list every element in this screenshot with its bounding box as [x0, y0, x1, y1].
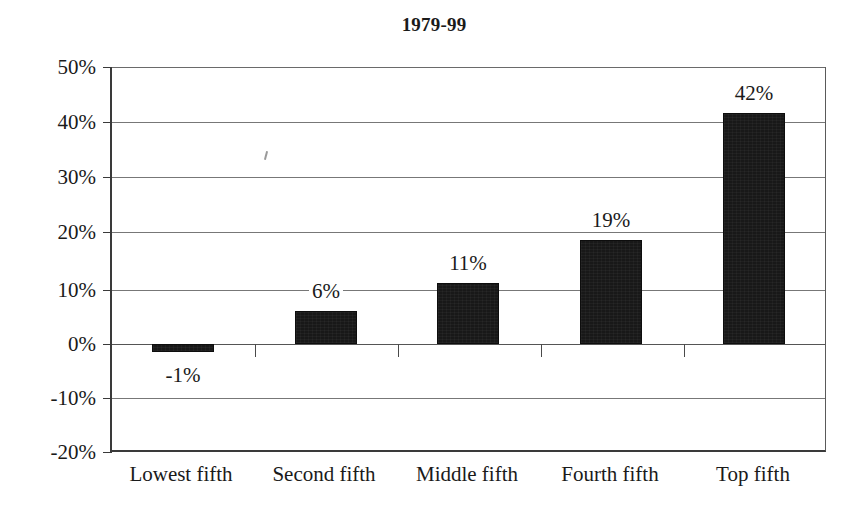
x-axis-category-labels: Lowest fifth Second fifth Middle fifth F… — [110, 462, 826, 502]
x-category-label-fourth-fifth: Fourth fifth — [561, 462, 658, 487]
y-tick-label-neg10: -10% — [51, 386, 97, 411]
y-tick-mark-30 — [103, 177, 112, 178]
y-tick-label-40: 40% — [58, 110, 97, 135]
y-tick-label-0: 0% — [68, 332, 96, 357]
bar-chart: 1979-99 50% 40% 30% 20% 10% 0% -10% -20% — [0, 0, 868, 511]
y-tick-mark-neg10 — [103, 398, 112, 399]
y-tick-mark-50 — [103, 67, 112, 68]
gridline-30 — [112, 177, 825, 178]
x-category-label-lowest-fifth: Lowest fifth — [129, 462, 232, 487]
bar-value-label-middle-fifth: 11% — [446, 252, 490, 274]
y-axis-tick-labels: 50% 40% 30% 20% 10% 0% -10% -20% — [0, 0, 110, 511]
y-tick-mark-0 — [103, 344, 112, 345]
plot-area: -1% 6% 11% 19% 42% — [110, 67, 826, 452]
bar-fourth-fifth[interactable] — [580, 240, 642, 344]
bar-middle-fifth[interactable] — [437, 283, 499, 344]
bar-value-label-second-fifth: 6% — [309, 280, 343, 302]
bar-value-label-fourth-fifth: 19% — [589, 209, 634, 231]
gridline-40 — [112, 122, 825, 123]
y-tick-mark-10 — [103, 290, 112, 291]
y-tick-label-neg20: -20% — [51, 440, 97, 465]
x-tick-mark-3 — [541, 344, 542, 357]
y-tick-mark-20 — [103, 232, 112, 233]
gridline-50 — [112, 67, 825, 68]
bar-second-fifth[interactable] — [295, 311, 357, 344]
bar-value-label-lowest-fifth: -1% — [163, 364, 204, 386]
scan-artifact-speck — [264, 151, 268, 160]
bar-value-label-top-fifth: 42% — [732, 82, 777, 104]
x-category-label-top-fifth: Top fifth — [716, 462, 790, 487]
x-category-label-middle-fifth: Middle fifth — [416, 462, 518, 487]
gridline-20 — [112, 232, 825, 233]
y-tick-mark-40 — [103, 122, 112, 123]
x-tick-mark-2 — [398, 344, 399, 357]
gridline-neg10 — [112, 398, 825, 399]
gridline-zero — [112, 344, 825, 345]
y-tick-label-30: 30% — [58, 165, 97, 190]
y-tick-label-50: 50% — [58, 55, 97, 80]
bar-top-fifth[interactable] — [723, 113, 785, 344]
x-category-label-second-fifth: Second fifth — [272, 462, 375, 487]
x-tick-mark-4 — [684, 344, 685, 357]
chart-title: 1979-99 — [0, 14, 868, 36]
y-tick-mark-neg20 — [103, 452, 112, 453]
y-tick-label-10: 10% — [58, 278, 97, 303]
x-tick-mark-1 — [255, 344, 256, 357]
y-tick-label-20: 20% — [58, 220, 97, 245]
bar-lowest-fifth[interactable] — [152, 344, 214, 352]
